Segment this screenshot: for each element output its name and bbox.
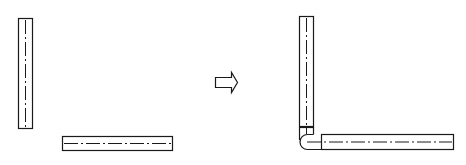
after-horizontal-bar (307, 135, 454, 150)
diagram-canvas (0, 0, 466, 165)
before-group (19, 19, 173, 151)
after-elbow (300, 128, 322, 150)
before-horizontal-bar (63, 137, 173, 151)
before-vertical-bar (19, 19, 33, 129)
after-vertical-bar (300, 17, 314, 135)
transform-arrow-icon (216, 73, 238, 93)
after-group (300, 17, 454, 150)
